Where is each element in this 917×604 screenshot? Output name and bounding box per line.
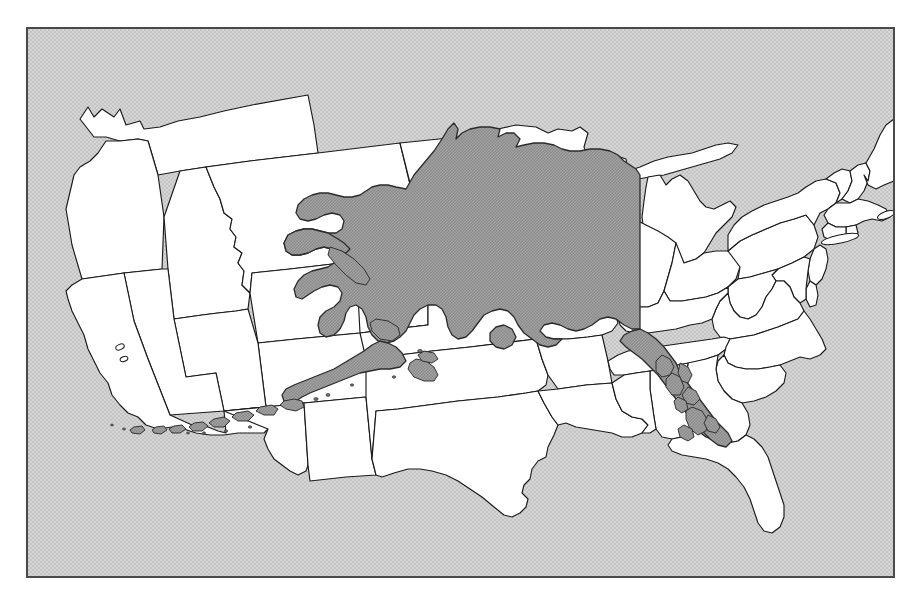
alaska-islet-g: [123, 428, 126, 430]
figure-caption: [0, 16, 1, 17]
alaska-island-pribilof: [418, 349, 423, 352]
map-figure: Alaska shown at true scale overlaid on t…: [0, 0, 917, 604]
map-canvas: [28, 29, 893, 576]
alaska-islet-c: [248, 426, 252, 429]
state-delaware: [806, 281, 818, 307]
alaska-islet-e: [202, 432, 205, 434]
alaska-islet-i: [392, 376, 396, 379]
page-title: Alaska shown at true scale overlaid on t…: [0, 21, 1, 22]
map-frame: [26, 27, 895, 578]
alaska-islet-h: [111, 424, 114, 426]
alaska-islet-d: [224, 430, 227, 432]
alaska-islet-b: [326, 394, 330, 397]
alaska-kenai-peninsula: [490, 325, 516, 349]
alaska-islet-a: [314, 398, 318, 401]
alaska-islet-j: [350, 384, 353, 386]
state-new-mexico: [304, 397, 376, 481]
alaska-islet-f: [187, 432, 190, 434]
